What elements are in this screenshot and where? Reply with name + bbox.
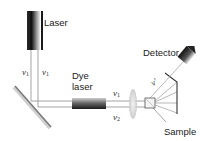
laser-tube xyxy=(27,11,43,50)
subscript: 1 xyxy=(46,71,49,77)
detector xyxy=(178,42,199,64)
beam-label-lower: ν2 xyxy=(113,112,120,124)
dye-laser-label-line1: Dye xyxy=(72,70,89,81)
sample-cell xyxy=(145,98,155,108)
beam-label-laser-right: ν1 xyxy=(42,67,49,79)
laser-label: Laser xyxy=(44,17,68,28)
laser-beams xyxy=(31,50,38,107)
raman-setup-diagram: Laser ν1 ν1 Dye laser ν1 ν2 ν′ Detector … xyxy=(0,0,213,141)
sample-label: Sample xyxy=(164,126,196,137)
lens xyxy=(129,89,137,119)
collector-mirror xyxy=(165,73,177,114)
detector-label: Detector xyxy=(143,47,179,58)
subscript: 1 xyxy=(117,92,120,98)
sample-beams xyxy=(106,101,146,107)
dye-laser-label-line2: laser xyxy=(72,81,93,92)
subscript: 1 xyxy=(26,71,29,77)
subscript: 2 xyxy=(117,116,120,122)
beam-label-upper: ν1 xyxy=(113,88,120,100)
scatter-rays xyxy=(155,82,177,113)
sample-leader xyxy=(153,108,166,122)
beam-label-laser-left: ν1 xyxy=(22,67,29,79)
diagram-canvas xyxy=(0,0,213,141)
dye-laser-tube xyxy=(72,98,106,109)
horizontal-beams xyxy=(31,101,72,107)
